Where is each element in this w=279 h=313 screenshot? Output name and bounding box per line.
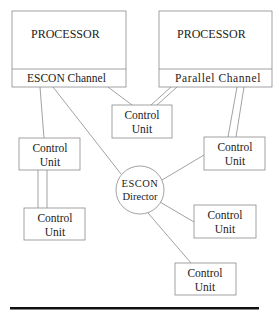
bottom-rule: [10, 307, 259, 310]
processor-label: PROCESSOR: [31, 27, 100, 41]
control-unit: Control Unit: [112, 105, 172, 138]
link-parallel-to-cu-right-a: [228, 87, 237, 137]
link-parallel-to-cu-top-center-b: [157, 87, 177, 105]
control-unit-label: Control: [32, 142, 67, 154]
control-unit-label: Unit: [132, 123, 153, 135]
director-label: ESCON: [122, 178, 159, 189]
escon-channel-label: ESCON Channel: [27, 72, 106, 84]
processor-escon: PROCESSOR ESCON Channel: [12, 11, 126, 87]
control-unit-label: Unit: [225, 155, 246, 167]
control-unit-label: Unit: [45, 226, 66, 238]
parallel-channel-label: Parallel Channel: [175, 72, 261, 84]
control-unit-label: Control: [37, 212, 72, 224]
link-parallel-to-cu-top-center-a: [151, 87, 171, 105]
control-unit-label: Control: [217, 141, 252, 153]
escon-director: ESCON Director: [116, 166, 164, 214]
control-unit-label: Control: [124, 109, 159, 121]
processor-label: PROCESSOR: [177, 27, 246, 41]
control-unit-label: Control: [187, 267, 222, 279]
link-director-to-cu-right: [162, 155, 204, 180]
control-unit: Control Unit: [175, 263, 236, 295]
control-unit-label: Unit: [195, 281, 216, 293]
control-unit-label: Unit: [40, 156, 61, 168]
link-escon-to-cu-top-center: [108, 87, 132, 105]
link-parallel-to-cu-right-b: [236, 87, 244, 137]
control-unit-label: Unit: [215, 223, 236, 235]
control-unit: Control Unit: [19, 138, 80, 170]
director-label: Director: [123, 191, 158, 202]
link-director-to-cu-mid-right: [160, 202, 194, 222]
escon-topology-diagram: PROCESSOR ESCON Channel PROCESSOR Parall…: [0, 0, 279, 313]
control-unit: Control Unit: [194, 205, 256, 238]
control-unit-label: Control: [207, 209, 242, 221]
control-unit: Control Unit: [24, 208, 85, 240]
link-director-to-cu-bottom: [148, 213, 191, 263]
processor-parallel: PROCESSOR Parallel Channel: [159, 11, 272, 87]
link-escon-to-cu-left: [40, 87, 44, 138]
control-unit: Control Unit: [204, 137, 265, 170]
